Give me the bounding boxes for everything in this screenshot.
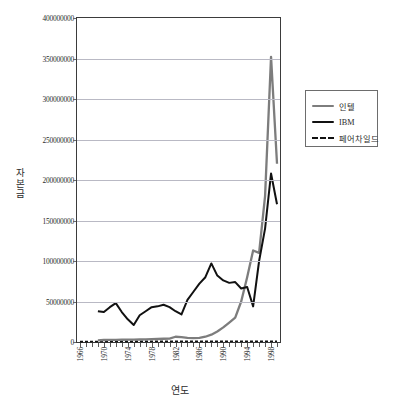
x-tickmark (110, 343, 111, 347)
y-tick-label: 0 (4, 338, 74, 347)
y-tick-label: 400000000 (4, 14, 74, 23)
legend-swatch-icon (312, 133, 334, 143)
gridline (77, 302, 280, 303)
x-tickmark (134, 343, 135, 347)
legend-label: 인텔 (339, 100, 355, 112)
x-tickmark (265, 343, 266, 347)
legend-label: IBM (339, 118, 354, 127)
x-axis-title: 연도 (0, 382, 360, 397)
x-tickmark (92, 343, 93, 347)
x-tickmark (158, 343, 159, 347)
x-tickmark (229, 343, 230, 347)
x-tick-label: 1978 (148, 347, 157, 361)
legend-item: 인텔 (312, 98, 377, 114)
gridline (77, 99, 280, 100)
y-tick-label: 200000000 (4, 176, 74, 185)
x-tickmark (116, 343, 117, 347)
legend-item: IBM (312, 114, 377, 130)
x-tickmark (277, 343, 278, 347)
x-tickmark (164, 343, 165, 347)
x-tick-label: 1966 (76, 347, 85, 361)
y-tick-label: 50000000 (4, 297, 74, 306)
x-tickmark (211, 343, 212, 347)
y-tick-label: 250000000 (4, 135, 74, 144)
x-tickmark (235, 343, 236, 347)
legend-swatch-icon (312, 101, 334, 111)
gridline (77, 180, 280, 181)
gridline (77, 59, 280, 60)
x-tickmark (205, 343, 206, 347)
x-tick-label: 1994 (243, 347, 252, 361)
x-tickmark (170, 343, 171, 347)
y-axis-ticks: 0500000001000000001500000002000000002500… (0, 0, 74, 407)
x-tick-label: 1982 (172, 347, 181, 361)
x-tickmark (122, 343, 123, 347)
x-tickmark (140, 343, 141, 347)
x-tickmark (146, 343, 147, 347)
x-tickmark (98, 343, 99, 347)
y-tick-label: 350000000 (4, 54, 74, 63)
y-tick-label: 150000000 (4, 216, 74, 225)
x-tick-label: 1986 (195, 347, 204, 361)
plot-area (76, 17, 281, 343)
x-tick-label: 1970 (100, 347, 109, 361)
y-tick-label: 300000000 (4, 95, 74, 104)
legend: 인텔IBM페어차일드 (305, 90, 378, 147)
x-tickmark (86, 343, 87, 347)
y-tick-label: 100000000 (4, 257, 74, 266)
gridline (77, 261, 280, 262)
legend-item: 페어차일드 (312, 130, 377, 146)
x-tickmark (253, 343, 254, 347)
x-tickmark (187, 343, 188, 347)
x-tickmark (181, 343, 182, 347)
legend-label: 페어차일드 (339, 132, 379, 144)
x-tick-label: 1990 (219, 347, 228, 361)
x-tick-label: 1998 (267, 347, 276, 361)
x-tickmark (259, 343, 260, 347)
gridline (77, 140, 280, 141)
gridline (77, 221, 280, 222)
x-tick-label: 1974 (124, 347, 133, 361)
legend-swatch-icon (312, 117, 334, 127)
chart-container: 자본금 050000000100000000150000000200000000… (0, 0, 396, 407)
